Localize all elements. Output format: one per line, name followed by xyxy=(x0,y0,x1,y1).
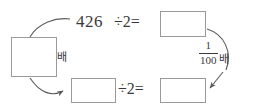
worksheet-diagram: 426 ÷2= ÷2= 배 1 100 배 xyxy=(0,0,256,110)
arrow-fraction-to-bottom-right xyxy=(210,72,223,88)
bottom-division-expression: ÷2= xyxy=(118,81,144,97)
fraction-denominator: 100 xyxy=(199,55,218,67)
multiplier-label-right: 배 xyxy=(219,54,229,66)
fraction-one-hundredth: 1 100 xyxy=(199,40,218,66)
top-division-expression: ÷2= xyxy=(114,14,140,30)
answer-box-top-right[interactable] xyxy=(160,11,206,37)
arrow-left-to-dividend xyxy=(30,19,70,37)
fraction-numerator: 1 xyxy=(204,40,214,52)
answer-box-bottom-right[interactable] xyxy=(160,78,206,103)
answer-box-left[interactable] xyxy=(11,37,57,77)
arrow-left-to-bottom-left xyxy=(30,78,63,94)
multiplier-label-left: 배 xyxy=(57,52,67,63)
fraction-multiplier-group: 1 100 배 xyxy=(199,40,229,66)
answer-box-bottom-left[interactable] xyxy=(71,78,116,103)
dividend-number: 426 xyxy=(76,13,103,30)
